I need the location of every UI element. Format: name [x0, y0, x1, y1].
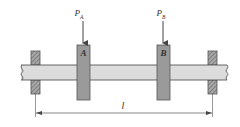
load-pa: PA	[74, 8, 85, 43]
right-bearing-bottom	[208, 80, 217, 94]
disk-a-label: A	[79, 48, 86, 58]
load-pa-label: PA	[74, 8, 85, 20]
right-bearing-top	[208, 51, 217, 65]
left-bearing-top	[31, 51, 40, 65]
load-pb-label: PB	[156, 8, 167, 20]
shaft-diagram: A B PA PB l	[0, 0, 240, 127]
disk-b-label: B	[159, 48, 166, 58]
left-bearing-bottom	[31, 80, 40, 94]
dimension-label: l	[122, 100, 125, 111]
dimension-l: l	[36, 94, 213, 117]
shaft-body	[21, 65, 227, 80]
shaft	[21, 65, 228, 80]
disk-b: B	[157, 45, 170, 100]
dimension-arrow-left-icon	[36, 111, 42, 115]
dimension-arrow-right-icon	[206, 111, 212, 115]
load-pb: PB	[156, 8, 167, 43]
disk-a: A	[77, 45, 90, 100]
